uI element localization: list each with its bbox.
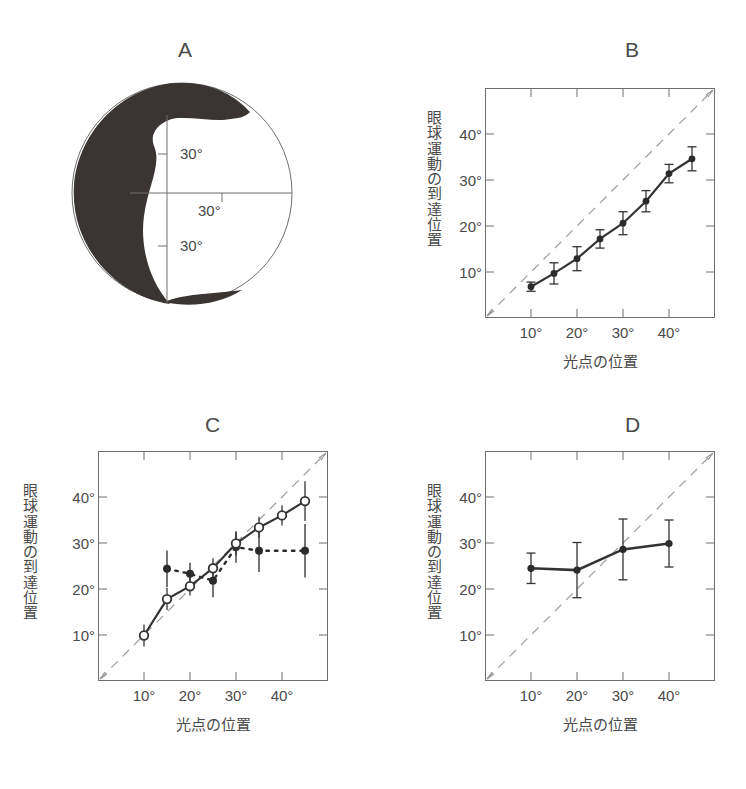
panel-b-series-1 <box>527 147 697 291</box>
panel-b-x-axis-title: 光点の位置 <box>563 350 638 371</box>
panel-c: C 眼球運動の到達位置 <box>0 395 380 789</box>
panel-d-reference-line <box>487 453 713 679</box>
panel-c-ytick-40: 40° <box>57 489 95 506</box>
panel-b-xtick-30: 30° <box>612 324 635 341</box>
panel-d-ytick-10: 10° <box>444 627 482 644</box>
panel-d: D 眼球運動の到達位置 <box>390 395 746 789</box>
panel-d-ytick-40: 40° <box>444 489 482 506</box>
panel-b-ytick-20: 20° <box>444 218 482 235</box>
field-label-lower-30: 30° <box>180 237 203 254</box>
field-label-upper-30: 30° <box>180 145 203 162</box>
panel-d-x-axis-title: 光点の位置 <box>563 713 638 734</box>
panel-d-xtick-10: 10° <box>520 687 543 704</box>
panel-b-xtick-10: 10° <box>520 324 543 341</box>
panel-c-x-axis-title: 光点の位置 <box>176 713 251 734</box>
panel-b: B 眼球運動の到達位置 <box>390 0 746 395</box>
panel-b-xtick-20: 20° <box>566 324 589 341</box>
panel-c-xtick-30: 30° <box>225 687 248 704</box>
panel-c-ytick-10: 10° <box>57 627 95 644</box>
panel-c-ytick-30: 30° <box>57 535 95 552</box>
panel-d-series-1 <box>527 519 674 598</box>
panel-d-xtick-20: 20° <box>566 687 589 704</box>
panel-b-xtick-40: 40° <box>658 324 681 341</box>
panel-d-xtick-30: 30° <box>612 687 635 704</box>
visual-field-svg <box>70 68 295 318</box>
panel-c-xtick-20: 20° <box>179 687 202 704</box>
panel-a: A 30° 30° 30° <box>0 0 370 395</box>
panel-d-ytick-30: 30° <box>444 535 482 552</box>
panel-b-ytick-40: 40° <box>444 126 482 143</box>
field-label-right-30: 30° <box>198 202 221 219</box>
panel-c-xtick-10: 10° <box>133 687 156 704</box>
panel-d-xtick-40: 40° <box>658 687 681 704</box>
panel-b-reference-line <box>487 90 713 316</box>
visual-field-diagram: 30° 30° 30° <box>70 68 295 318</box>
panel-a-label: A <box>178 38 193 62</box>
panel-c-xtick-40: 40° <box>271 687 294 704</box>
panel-c-ytick-20: 20° <box>57 581 95 598</box>
panel-b-ytick-30: 30° <box>444 172 482 189</box>
panel-b-ytick-10: 10° <box>444 264 482 281</box>
panel-d-ytick-20: 20° <box>444 581 482 598</box>
